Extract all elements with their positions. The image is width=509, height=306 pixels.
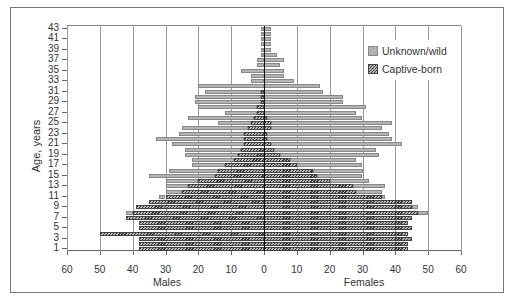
bar-male-captive — [182, 190, 264, 194]
x-tick-mark — [198, 251, 199, 255]
x-tick-mark — [297, 251, 298, 255]
bar-female-captive — [264, 232, 408, 236]
bar-female-captive — [264, 200, 412, 204]
zero-line — [264, 26, 265, 251]
x-axis-label-males: Males — [153, 276, 181, 288]
bar-female-captive — [264, 190, 356, 194]
y-tick-label: 35 — [35, 65, 59, 75]
x-tick-mark — [100, 251, 101, 255]
bar-male-captive — [198, 179, 264, 183]
legend-item-unknown-wild: Unknown/wild — [368, 42, 447, 60]
y-tick-label: 37 — [35, 54, 59, 64]
bar-male-captive — [218, 169, 264, 173]
bar-male-wild — [166, 184, 189, 188]
bar-male-wild — [225, 111, 258, 115]
x-tick-mark — [428, 251, 429, 255]
bar-female-captive — [264, 226, 412, 230]
x-tick-label: 20 — [193, 264, 204, 275]
x-tick-label: 60 — [455, 264, 466, 275]
y-tick-label: 9 — [35, 201, 59, 211]
bar-male-wild — [218, 121, 251, 125]
bar-female-wild — [271, 121, 392, 125]
bar-male-wild — [195, 95, 261, 99]
x-tick-label: 50 — [423, 264, 434, 275]
y-tick-label: 17 — [35, 159, 59, 169]
bar-male-wild — [257, 58, 264, 62]
x-tick-mark — [363, 251, 364, 255]
bar-female-wild — [271, 126, 383, 130]
bar-female-wild — [264, 90, 323, 94]
bar-male-wild — [251, 79, 264, 83]
bar-female-wild — [271, 142, 402, 146]
bar-male-captive — [248, 126, 264, 130]
x-tick-mark — [461, 251, 462, 255]
legend: Unknown/wild Captive-born — [365, 40, 450, 80]
bar-female-captive — [264, 221, 408, 225]
bar-female-wild — [418, 211, 428, 215]
bar-female-captive — [264, 153, 280, 157]
bar-female-wild — [313, 169, 362, 173]
x-tick-label: 0 — [261, 264, 267, 275]
bar-female-captive — [264, 179, 330, 183]
x-tick-label: 10 — [291, 264, 302, 275]
bar-female-captive — [264, 242, 408, 246]
bar-male-captive — [149, 200, 264, 204]
gridline — [100, 26, 101, 251]
bar-male-captive — [257, 111, 264, 115]
y-tick-label: 33 — [35, 75, 59, 85]
bar-female-wild — [297, 163, 363, 167]
bar-male-wild — [185, 153, 238, 157]
x-tick-label: 50 — [94, 264, 105, 275]
bar-male-wild — [179, 132, 245, 136]
bar-female-wild — [267, 132, 388, 136]
bar-male-captive — [100, 232, 264, 236]
bar-male-captive — [225, 163, 264, 167]
bar-female-wild — [412, 205, 419, 209]
y-tick-label: 23 — [35, 128, 59, 138]
x-tick-mark — [231, 251, 232, 255]
bar-male-wild — [166, 179, 199, 183]
bar-male-wild — [185, 148, 241, 152]
bar-female-wild — [264, 100, 343, 104]
bar-male-wild — [156, 137, 245, 141]
bar-female-wild — [264, 95, 343, 99]
x-tick-label: 20 — [324, 264, 335, 275]
x-tick-label: 30 — [160, 264, 171, 275]
bar-female-wild — [274, 148, 376, 152]
bar-male-wild — [251, 74, 264, 78]
y-tick-label: 29 — [35, 96, 59, 106]
bar-male-captive — [241, 148, 264, 152]
bar-male-wild — [182, 126, 248, 130]
y-tick-label: 3 — [35, 233, 59, 243]
y-tick-label: 31 — [35, 86, 59, 96]
bar-female-wild — [264, 79, 294, 83]
y-tick-label: 13 — [35, 180, 59, 190]
bar-female-wild — [264, 58, 284, 62]
bar-male-wild — [241, 69, 264, 73]
y-tick-label: 39 — [35, 44, 59, 54]
y-tick-label: 19 — [35, 149, 59, 159]
bar-female-captive — [264, 237, 412, 241]
bar-male-wild — [166, 190, 182, 194]
legend-label: Unknown/wild — [382, 45, 447, 57]
bar-male-captive — [244, 142, 264, 146]
y-tick-label: 43 — [35, 23, 59, 33]
bar-male-wild — [188, 116, 254, 120]
bar-male-captive — [166, 195, 265, 199]
bar-male-wild — [195, 100, 261, 104]
y-tick-label: 21 — [35, 138, 59, 148]
x-tick-mark — [133, 251, 134, 255]
bar-female-wild — [356, 190, 382, 194]
bar-male-wild — [198, 105, 257, 109]
y-tick-label: 7 — [35, 212, 59, 222]
bar-male-captive — [234, 158, 264, 162]
bar-female-captive — [264, 163, 297, 167]
bar-female-wild — [264, 105, 366, 109]
y-tick-label: 15 — [35, 170, 59, 180]
bar-male-captive — [139, 237, 264, 241]
y-tick-label: 11 — [35, 191, 59, 201]
bar-female-wild — [353, 184, 386, 188]
bar-female-wild — [264, 74, 284, 78]
legend-item-captive-born: Captive-born — [368, 60, 447, 78]
bar-female-captive — [264, 148, 274, 152]
